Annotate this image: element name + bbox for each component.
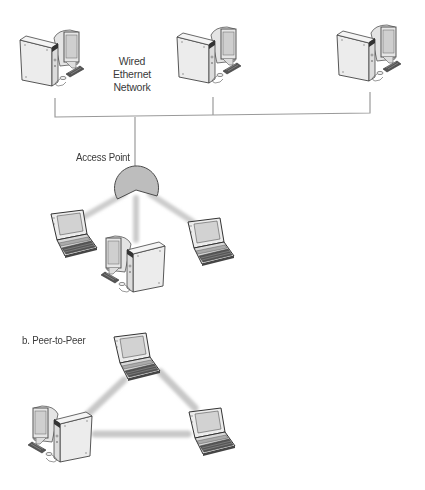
wireless-links [82, 194, 193, 240]
peer-links [88, 372, 195, 434]
network-diagram [0, 0, 425, 490]
access-point-icon [115, 166, 159, 199]
wired-network-label: Wired Ethernet Network [110, 55, 154, 94]
peer-to-peer-title: b. Peer-to-Peer [22, 334, 86, 347]
wired-desktop-2-icon [177, 22, 241, 83]
wireless-desktop-center-icon [101, 231, 165, 292]
peer-laptop-top-icon [114, 333, 160, 381]
wired-label-line-3: Network [110, 81, 154, 94]
wired-desktop-3-icon [337, 20, 401, 81]
peer-laptop-right-icon [189, 408, 235, 456]
wireless-laptop-right-icon [188, 218, 234, 266]
wired-label-line-2: Ethernet [110, 68, 154, 81]
peer-desktop-bottom-left-icon [28, 401, 92, 462]
wired-desktop-1-icon [20, 25, 84, 86]
wired-label-line-1: Wired [110, 55, 154, 68]
access-point-label: Access Point [76, 151, 130, 164]
wireless-laptop-left-icon [51, 210, 97, 258]
